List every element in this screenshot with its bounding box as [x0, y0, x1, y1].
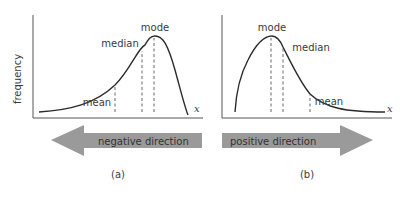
- panel-a: mode median mean x negative direction (a…: [33, 15, 203, 180]
- x-axis-label: x: [194, 103, 200, 114]
- negative-direction-label: negative direction: [98, 136, 189, 147]
- mode-label: mode: [258, 22, 286, 33]
- panel-b: mode median mean x positive direction (b…: [222, 15, 393, 180]
- x-axis-label: x: [387, 103, 393, 114]
- median-label: median: [292, 42, 330, 53]
- caption-b: (b): [300, 169, 314, 180]
- mean-label: mean: [315, 96, 343, 107]
- mean-label: mean: [83, 97, 111, 108]
- median-label: median: [101, 38, 139, 49]
- skewness-diagram: frequency mode median mean x negative di…: [0, 0, 410, 210]
- mode-label: mode: [141, 22, 169, 33]
- positive-direction-label: positive direction: [230, 136, 316, 147]
- caption-a: (a): [111, 169, 125, 180]
- y-axis-label: frequency: [12, 54, 23, 104]
